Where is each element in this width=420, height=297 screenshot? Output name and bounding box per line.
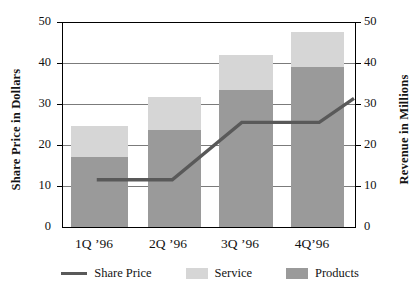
y-axis-left-tick-20: 20 <box>39 138 52 151</box>
legend-item-service[interactable]: Service <box>186 266 252 281</box>
tick-right-50 <box>356 22 361 23</box>
tick-right-10 <box>356 186 361 187</box>
x-axis-label-4q96: 4Q’96 <box>268 236 356 252</box>
legend-label-share-price: Share Price <box>94 266 151 281</box>
legend-label-products: Products <box>315 266 359 281</box>
y-axis-left-title: Share Price in Dollars <box>9 30 24 230</box>
y-axis-left-tick-10: 10 <box>39 179 52 192</box>
tick-right-20 <box>356 145 361 146</box>
y-axis-right-tick-20: 20 <box>364 138 377 151</box>
chart-legend: Share Price Service Products <box>0 266 420 281</box>
tick-left-40 <box>57 63 62 64</box>
y-axis-right-tick-50: 50 <box>364 15 377 28</box>
plot-area <box>62 22 356 228</box>
legend-label-service: Service <box>215 266 252 281</box>
y-axis-left-tick-30: 30 <box>39 97 52 110</box>
y-axis-right-title: Revenue in Millions <box>397 30 412 230</box>
legend-item-products[interactable]: Products <box>286 266 359 281</box>
legend-swatch-service <box>186 268 208 279</box>
y-axis-left-tick-40: 40 <box>39 56 52 69</box>
share-price-polyline[interactable] <box>97 98 354 179</box>
y-axis-right-tick-0: 0 <box>364 220 370 233</box>
y-axis-left-tick-0: 0 <box>45 220 51 233</box>
tick-right-30 <box>356 104 361 105</box>
y-axis-left-tick-50: 50 <box>39 15 52 28</box>
tick-left-50 <box>57 22 62 23</box>
share-price-line[interactable] <box>63 23 355 227</box>
legend-line-icon <box>61 272 87 275</box>
plot-inner <box>63 23 355 227</box>
legend-item-share-price[interactable]: Share Price <box>61 266 151 281</box>
y-axis-right-tick-30: 30 <box>364 97 377 110</box>
tick-left-20 <box>57 145 62 146</box>
tick-right-40 <box>356 63 361 64</box>
tick-left-10 <box>57 186 62 187</box>
chart-container: Share Price in Dollars Revenue in Millio… <box>0 0 420 297</box>
y-axis-right-tick-10: 10 <box>364 179 377 192</box>
y-axis-right-tick-40: 40 <box>364 56 377 69</box>
legend-swatch-products <box>286 268 308 279</box>
tick-left-30 <box>57 104 62 105</box>
